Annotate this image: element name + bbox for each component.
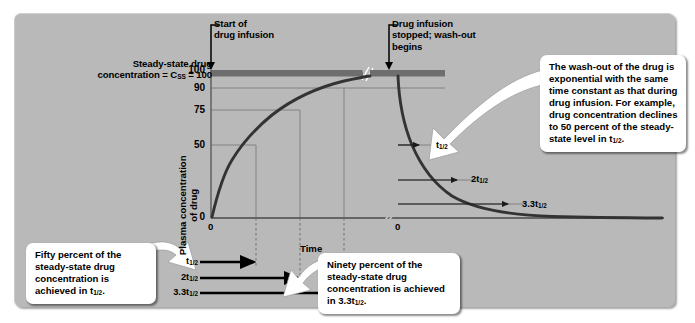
stop-infusion-label: Drug infusion stopped; wash-out begins xyxy=(392,18,514,52)
washin-curve xyxy=(212,76,370,217)
curve-marker-33t1: 3.3t1/2 xyxy=(522,199,547,209)
steady-state-bar-right xyxy=(370,70,445,77)
start-infusion-label: Start of drug infusion xyxy=(214,18,318,41)
fifty-subscript: 1/2 xyxy=(93,290,102,297)
y-tick-50: 50 xyxy=(175,139,205,150)
y-tick-75: 75 xyxy=(175,104,205,115)
bottom-arrow-label-t1: t1/2 xyxy=(150,256,198,266)
curve-marker-2t1: 2t1/2 xyxy=(471,174,488,184)
figure-root: Steady-state drug concentration = CSS = … xyxy=(0,0,695,323)
curve-marker-t1: t1/2 xyxy=(436,140,448,150)
x-tick-washin-0: 0 xyxy=(208,221,213,232)
ninety-subscript: 1/2 xyxy=(355,300,364,307)
y-axis-title-wrapper: Plasma concentration of drug xyxy=(122,70,142,220)
callout-ninety-percent: Ninety percent of the steady-state drug … xyxy=(318,253,460,314)
y-tick-90: 90 xyxy=(175,82,205,93)
callout-fifty-percent: Fifty percent of the steady-state drug c… xyxy=(26,243,156,304)
washout-subscript: 1/2 xyxy=(612,138,621,145)
steady-state-bar-left xyxy=(211,70,363,77)
y-tick-100: 100 xyxy=(175,64,205,75)
stop-infusion-arrowhead xyxy=(385,62,393,70)
callout-washout: The wash-out of the drug is exponential … xyxy=(540,55,686,152)
x-tick-washout-0: 0 xyxy=(395,221,400,232)
y-tick-0: 0 xyxy=(175,211,205,222)
bottom-arrow-label-2t1: 2t1/2 xyxy=(150,272,198,282)
x-axis-title: Time xyxy=(300,243,322,254)
